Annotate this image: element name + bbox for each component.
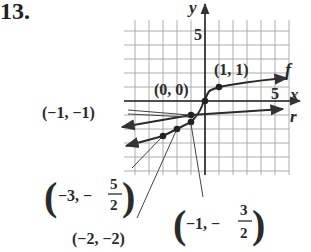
svg-text:5: 5 <box>110 176 118 192</box>
label-r: r <box>290 107 297 126</box>
label-f: f <box>285 60 293 80</box>
svg-text:−3, −: −3, − <box>58 187 92 204</box>
point-m2-m2 <box>174 126 181 133</box>
svg-text:3: 3 <box>240 202 248 218</box>
label-m1-m1: (−1, −1) <box>42 104 95 122</box>
x-axis-label: x <box>289 85 299 104</box>
svg-text:(: ( <box>173 202 186 247</box>
svg-text:−1, −: −1, − <box>186 215 220 232</box>
svg-text:2: 2 <box>110 197 118 213</box>
svg-text:): ) <box>122 174 135 219</box>
label-m3-m5over2: ( −3, − 5 2 ) <box>44 174 135 219</box>
svg-text:(: ( <box>44 174 57 219</box>
graph: y 5 x 5 f r (0, 0) (1, 1) (−1, −1) (−2, … <box>0 0 311 252</box>
x-tick-5: 5 <box>271 85 279 102</box>
label-m2-m2: (−2, −2) <box>72 230 125 248</box>
y-axis-label: y <box>187 0 197 17</box>
svg-text:2: 2 <box>240 225 248 241</box>
label-1-1: (1, 1) <box>214 61 249 79</box>
point-1-1 <box>216 84 223 91</box>
point-0-0 <box>202 98 209 105</box>
label-m1-m3over2: ( −1, − 3 2 ) <box>173 202 265 247</box>
svg-text:): ) <box>252 202 265 247</box>
label-0-0: (0, 0) <box>154 81 189 99</box>
leader-lines <box>128 110 203 218</box>
y-tick-5: 5 <box>194 26 202 43</box>
